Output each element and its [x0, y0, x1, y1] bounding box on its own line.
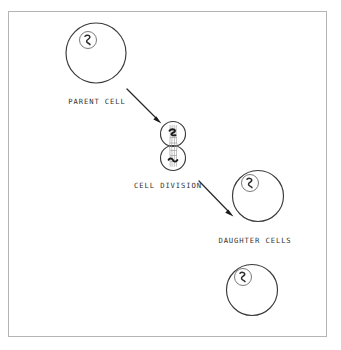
diagram-canvas: PARENT CELL CELL DIVISION DAUGHTER CELLS — [0, 0, 341, 350]
parent-cell — [66, 23, 126, 83]
label-cell-division: CELL DIVISION — [134, 181, 202, 190]
arrow-division-to-daughter-head — [225, 210, 233, 217]
arrow-division-to-daughter-shaft — [199, 181, 230, 213]
daughter-cell-2-chromatin-icon — [240, 272, 245, 281]
daughter-cell-1-chromatin-icon — [247, 178, 252, 187]
dividing-cell — [161, 122, 186, 171]
daughter-cell-2-membrane — [227, 265, 278, 316]
cell-division-diagram-page: PARENT CELL CELL DIVISION DAUGHTER CELLS — [0, 0, 341, 350]
parent-cell-chromatin-icon — [85, 35, 90, 44]
arrow-parent-to-division-shaft — [127, 89, 158, 120]
daughter-cell-1 — [233, 171, 284, 222]
dividing-cell-lower-membrane — [161, 146, 186, 171]
daughter-cell-2 — [227, 265, 278, 316]
label-parent-cell: PARENT CELL — [68, 97, 126, 106]
daughter-cell-1-membrane — [233, 171, 284, 222]
arrow-division-to-daughter — [199, 181, 234, 217]
arrow-parent-to-division — [127, 89, 162, 124]
parent-cell-membrane — [66, 23, 126, 83]
label-daughter-cells: DAUGHTER CELLS — [218, 236, 291, 245]
